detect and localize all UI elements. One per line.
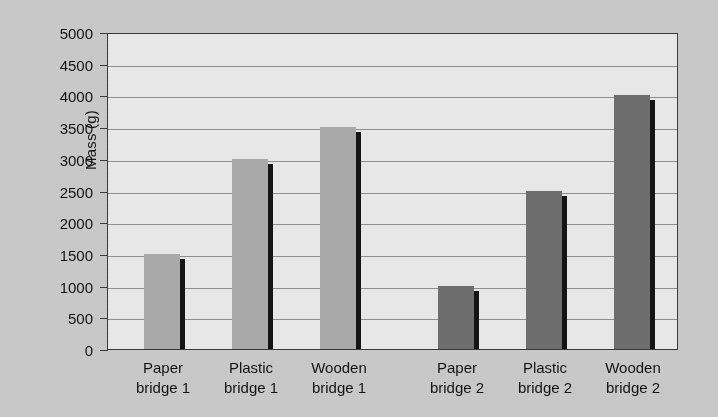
y-axis-tick-mark (100, 350, 107, 351)
x-axis-label: Woodenbridge 1 (279, 358, 399, 398)
y-axis-tick-label: 2500 (33, 183, 93, 200)
bar-shadow (356, 132, 361, 349)
gridline (108, 224, 677, 225)
gridline (108, 97, 677, 98)
y-axis-tick-mark (100, 96, 107, 97)
bar (526, 191, 567, 350)
bar-shadow (650, 100, 655, 349)
y-axis-tick-label: 4500 (33, 56, 93, 73)
gridline (108, 256, 677, 257)
bar-body (526, 191, 562, 350)
y-axis-tick-group: 5000450040003500300025002000150010005000 (0, 0, 107, 417)
y-axis-tick-label: 2000 (33, 215, 93, 232)
bar-shadow (562, 196, 567, 350)
bar (144, 254, 185, 349)
bar (232, 159, 273, 349)
y-axis-tick-label: 3000 (33, 151, 93, 168)
bar-body (320, 127, 356, 349)
y-axis-tick-mark (100, 318, 107, 319)
y-axis-tick-mark (100, 65, 107, 66)
bar-shadow (474, 291, 479, 349)
y-axis-tick-mark (100, 33, 107, 34)
y-axis-tick-label: 5000 (33, 25, 93, 42)
y-axis-tick-label: 3500 (33, 120, 93, 137)
x-axis-label-line: bridge 1 (279, 378, 399, 398)
y-axis-tick-mark (100, 128, 107, 129)
y-axis-tick-label: 1500 (33, 246, 93, 263)
gridline (108, 288, 677, 289)
y-axis-tick-mark (100, 192, 107, 193)
y-axis-tick-label: 1000 (33, 278, 93, 295)
gridline (108, 193, 677, 194)
x-axis-label-line: bridge 2 (573, 378, 693, 398)
bar-body (232, 159, 268, 349)
bar-body (144, 254, 180, 349)
plot-area (107, 33, 678, 350)
x-axis-label-line: Wooden (279, 358, 399, 378)
bar (614, 95, 655, 349)
bar-shadow (268, 164, 273, 349)
gridline (108, 161, 677, 162)
bar (320, 127, 361, 349)
bar-body (614, 95, 650, 349)
y-axis-tick-mark (100, 223, 107, 224)
bar (438, 286, 479, 349)
y-axis-tick-label: 0 (33, 342, 93, 359)
x-axis-label-line: Wooden (573, 358, 693, 378)
y-axis-tick-mark (100, 160, 107, 161)
y-axis-tick-label: 500 (33, 310, 93, 327)
x-axis-label: Woodenbridge 2 (573, 358, 693, 398)
gridline (108, 66, 677, 67)
gridline (108, 129, 677, 130)
bar-chart: Mass (g) 5000450040003500300025002000150… (0, 0, 718, 417)
y-axis-tick-mark (100, 287, 107, 288)
y-axis-tick-mark (100, 255, 107, 256)
gridline (108, 319, 677, 320)
y-axis-tick-label: 4000 (33, 88, 93, 105)
bar-shadow (180, 259, 185, 349)
bar-body (438, 286, 474, 349)
